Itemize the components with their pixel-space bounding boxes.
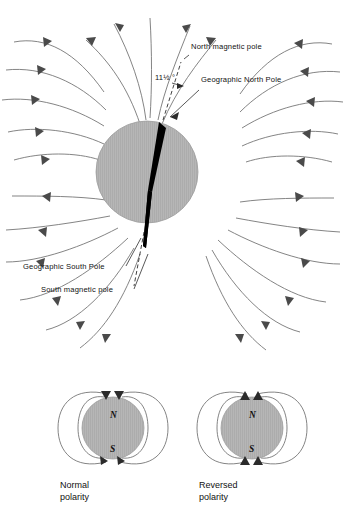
pole-label-north-reversed: N [248, 410, 257, 420]
pole-label-south-normal: S [110, 444, 115, 454]
panel-reversed-polarity: N S Reversed polarity [197, 391, 307, 502]
label-north-magnetic-pole: North magnetic pole [191, 42, 262, 51]
caption-normal-line2: polarity [60, 492, 90, 502]
panel-normal-polarity: N S Normal polarity [58, 391, 168, 502]
label-geographic-north-pole: Geographic North Pole [201, 75, 281, 84]
caption-reversed-line2: polarity [199, 492, 229, 502]
caption-normal-line1: Normal [60, 480, 89, 490]
pole-label-north-normal: N [109, 410, 118, 420]
caption-reversed-line1: Reversed [199, 480, 238, 490]
label-geographic-south-pole: Geographic South Pole [23, 262, 105, 271]
pole-label-south-reversed: S [249, 444, 254, 454]
diagram-canvas: North magnetic pole Geographic North Pol… [0, 0, 345, 513]
label-tilt-angle: 11½ ° [155, 73, 175, 82]
figure-root: North magnetic pole Geographic North Pol… [0, 0, 345, 513]
geographic-axis-leader [170, 90, 199, 120]
label-south-magnetic-pole: South magnetic pole [41, 285, 113, 294]
north-magnetic-pole-leader [184, 55, 189, 59]
